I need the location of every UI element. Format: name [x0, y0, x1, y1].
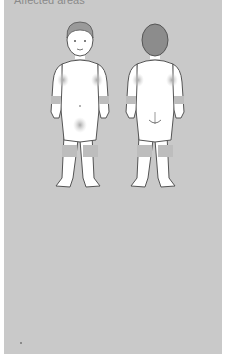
back-figure: [126, 24, 184, 187]
body-diagram: [4, 0, 222, 200]
speck: [20, 342, 22, 344]
diagram-panel: Affected areas: [4, 0, 222, 354]
front-figure: [51, 22, 109, 187]
